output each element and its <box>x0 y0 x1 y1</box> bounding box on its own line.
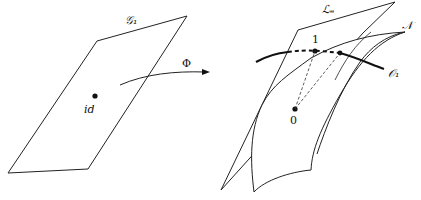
id-point <box>92 93 97 98</box>
id-label: id <box>84 104 95 115</box>
phi-arrow <box>120 72 205 85</box>
phi-label: Φ <box>182 58 191 69</box>
origin-label: 0 <box>290 115 297 126</box>
phi-arrowhead <box>202 69 210 75</box>
point-1-label: 1 <box>312 34 319 45</box>
diagram-drawing <box>0 0 421 200</box>
surface-N-label: 𝒩 <box>402 20 413 31</box>
plane-Le-label: ℒₑ <box>322 4 334 15</box>
orbit-O1-label: 𝒪₁ <box>388 68 399 79</box>
surface-N-front <box>252 32 405 192</box>
left-plane <box>8 16 187 173</box>
left-plane-label: 𝒢₁ <box>125 15 137 26</box>
diagram-canvas: 𝒢₁ id Φ ℒₑ 𝒩 𝒪₁ 1 0 <box>0 0 421 200</box>
